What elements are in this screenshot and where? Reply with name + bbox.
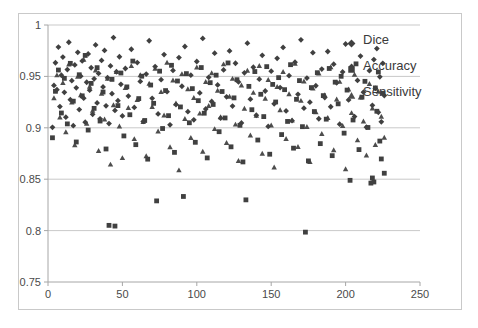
triangle-marker-icon: [347, 91, 356, 100]
series-dice-points: [50, 35, 388, 131]
svg-text:0.8: 0.8: [26, 225, 41, 237]
legend-label-sensitivity: Sensitivity: [363, 85, 422, 98]
series-accuracy-points: [50, 53, 387, 235]
svg-text:0.85: 0.85: [20, 173, 41, 185]
legend-item-sensitivity: Sensitivity: [345, 84, 457, 108]
diamond-marker-icon: [347, 39, 356, 48]
svg-text:150: 150: [262, 288, 280, 300]
scatter-chart: 050100150200250 0.750.80.850.90.951 Dice…: [0, 0, 478, 328]
legend-item-accuracy: Accuracy: [345, 58, 457, 82]
svg-text:1: 1: [35, 19, 41, 31]
y-axis-ticks: 0.750.80.850.90.951: [20, 19, 48, 288]
svg-text:250: 250: [411, 288, 429, 300]
series-sensitivity-points: [51, 57, 387, 173]
square-marker-icon: [347, 65, 356, 74]
svg-text:100: 100: [188, 288, 206, 300]
svg-text:0.9: 0.9: [26, 122, 41, 134]
svg-text:0: 0: [45, 288, 51, 300]
legend-label-dice: Dice: [363, 33, 389, 46]
svg-text:50: 50: [116, 288, 128, 300]
x-axis-ticks: 050100150200250: [45, 282, 429, 300]
svg-text:0.95: 0.95: [20, 70, 41, 82]
legend-item-dice: Dice: [345, 32, 457, 56]
legend-label-accuracy: Accuracy: [363, 59, 416, 72]
chart-legend: Dice Accuracy Sensitivity: [345, 32, 457, 110]
svg-text:200: 200: [336, 288, 354, 300]
svg-text:0.75: 0.75: [20, 276, 41, 288]
